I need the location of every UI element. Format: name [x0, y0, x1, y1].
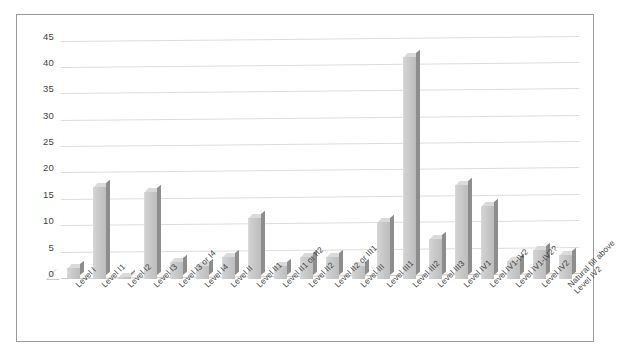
bar-slot	[481, 31, 494, 279]
y-axis-tick-label: 15	[43, 188, 54, 199]
gridline	[61, 167, 579, 173]
bar-slot	[170, 31, 183, 279]
bar-slot	[507, 31, 520, 279]
bar-slot	[403, 31, 416, 279]
y-axis-tick-label: 35	[43, 83, 54, 94]
gridline	[61, 220, 579, 226]
bar-slot	[222, 31, 235, 279]
bar-slot	[196, 31, 209, 279]
gridline	[61, 88, 579, 94]
bar-slot	[326, 31, 339, 279]
plot-area: 051015202530354045	[61, 31, 579, 279]
bar-slot	[67, 31, 80, 279]
bar[interactable]	[403, 57, 416, 279]
bar-slot	[455, 31, 468, 279]
y-axis-tick-label: 45	[43, 30, 54, 41]
bar-slot	[352, 31, 365, 279]
bar[interactable]	[93, 187, 106, 279]
y-axis-tick-label: 20	[43, 162, 54, 173]
gridline	[61, 62, 579, 68]
bar-slot	[377, 31, 390, 279]
bar-slot	[118, 31, 131, 279]
gridline	[61, 115, 579, 121]
chart-frame: 051015202530354045 Level ILevel I1Level …	[16, 14, 594, 342]
y-axis-tick-label: 30	[43, 109, 54, 120]
bar-slot	[533, 31, 546, 279]
y-axis-tick-label: 0	[49, 268, 54, 279]
y-axis-tick-label: 10	[43, 215, 54, 226]
y-axis-tick-label: 25	[43, 136, 54, 147]
bar-slot	[93, 31, 106, 279]
bar-slot	[300, 31, 313, 279]
gridline	[61, 194, 579, 200]
bar-slot	[144, 31, 157, 279]
y-axis-tick-label: 5	[49, 241, 54, 252]
x-axis-tick-labels: Level ILevel I1Level I2Level I3Level I3 …	[61, 281, 579, 341]
gridline	[61, 141, 579, 147]
y-axis-tick-label: 40	[43, 56, 54, 67]
bar-slot	[559, 31, 572, 279]
bar-slot	[274, 31, 287, 279]
bar-slot	[429, 31, 442, 279]
gridline	[61, 36, 579, 42]
bar-slot	[248, 31, 261, 279]
